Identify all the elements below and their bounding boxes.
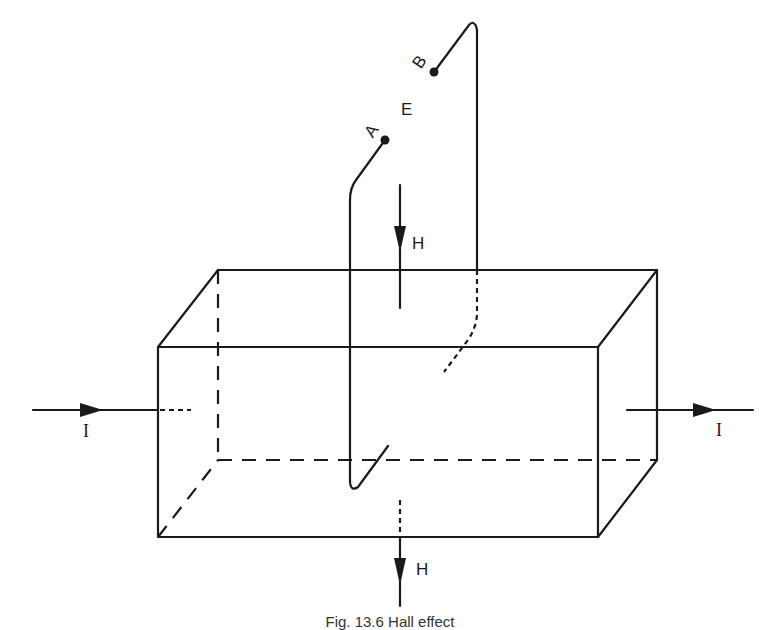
bottom-left-hidden-diagonal: [158, 460, 218, 537]
figure-caption: Fig. 13.6 Hall effect: [0, 613, 780, 630]
probe-b-label: B: [408, 52, 430, 72]
probe-a-wire: A: [350, 120, 390, 488]
probe-b-terminal: [430, 68, 439, 77]
probe-a-terminal: [381, 136, 390, 145]
field-e-label: E: [401, 100, 412, 119]
current-in-arrow: I: [33, 403, 191, 441]
front-face: [158, 347, 598, 537]
probe-b-hidden-lead: [444, 270, 477, 372]
arrow-right-icon: [693, 403, 716, 417]
conductor-slab: [158, 270, 657, 537]
current-in-label: I: [83, 421, 89, 441]
top-left-diagonal: [158, 270, 218, 347]
probe-a-lead: [350, 140, 388, 489]
current-out-label: I: [716, 420, 722, 440]
current-out-arrow: I: [627, 403, 753, 440]
arrow-right-icon: [80, 403, 103, 417]
h-label-bottom: H: [416, 560, 428, 579]
probe-b-lead: [434, 23, 477, 270]
magnetic-field-arrow-top: H: [394, 185, 424, 308]
top-right-diagonal: [598, 270, 657, 347]
probe-b-wire: B: [408, 23, 477, 372]
bottom-right-diagonal: [598, 460, 657, 537]
arrow-down-icon: [394, 226, 406, 252]
magnetic-field-arrow-bottom: H: [394, 500, 428, 606]
arrow-down-icon: [394, 558, 406, 585]
probe-a-label: A: [360, 120, 382, 141]
h-label-top: H: [412, 234, 424, 253]
